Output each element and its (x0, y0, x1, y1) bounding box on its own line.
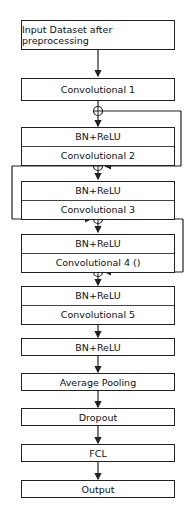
node-output: Output (21, 480, 175, 498)
node-output-label: Output (82, 484, 115, 495)
block2-bnrelu: BN+ReLU (22, 128, 174, 146)
block3-bnrelu: BN+ReLU (22, 182, 174, 200)
node-conv1-label: Convolutional 1 (61, 84, 135, 95)
block3-conv: Convolutional 3 (22, 200, 174, 219)
block5-conv: Convolutional 5 (22, 305, 174, 324)
node-input-label: Input Dataset after preprocessing (22, 24, 174, 46)
node-block2: BN+ReLU Convolutional 2 (21, 127, 175, 166)
node-block5: BN+ReLU Convolutional 5 (21, 286, 175, 325)
block4-bnrelu: BN+ReLU (22, 235, 174, 253)
node-block3: BN+ReLU Convolutional 3 (21, 181, 175, 220)
node-avgpool: Average Pooling (21, 373, 175, 391)
node-avgpool-label: Average Pooling (60, 377, 136, 388)
node-dropout-label: Dropout (79, 412, 117, 423)
node-dropout: Dropout (21, 408, 175, 426)
node-fcl-label: FCL (89, 448, 106, 459)
node-block4: BN+ReLU Convolutional 4 () (21, 234, 175, 273)
node-bnrelu: BN+ReLU (21, 338, 175, 356)
block2-conv: Convolutional 2 (22, 146, 174, 165)
node-fcl: FCL (21, 444, 175, 462)
node-bnrelu-label: BN+ReLU (75, 342, 120, 353)
node-input: Input Dataset after preprocessing (21, 20, 175, 50)
node-conv1: Convolutional 1 (21, 78, 175, 101)
block5-bnrelu: BN+ReLU (22, 287, 174, 305)
block4-conv: Convolutional 4 () (22, 253, 174, 272)
